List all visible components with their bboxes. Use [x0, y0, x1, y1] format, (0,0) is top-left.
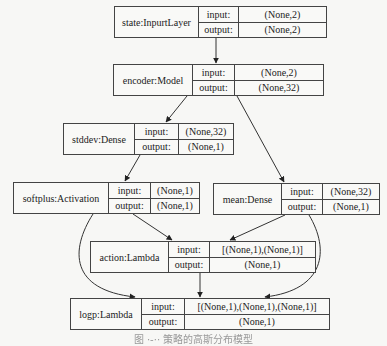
- node-label: logp:Lambda: [71, 299, 142, 329]
- edge-mean-action: [230, 215, 285, 240]
- output-shape: (None,1): [323, 200, 379, 215]
- input-shape: (None,2): [239, 7, 326, 23]
- input-shape: (None,1): [151, 183, 199, 199]
- output-label: output:: [169, 258, 209, 273]
- output-shape: (None,32): [235, 81, 323, 96]
- output-shape: (None,1): [151, 199, 199, 214]
- input-label: input:: [282, 184, 322, 200]
- node-mean: mean:Dense input:output: (None,32)(None,…: [213, 183, 380, 215]
- node-label: mean:Dense: [214, 184, 282, 214]
- edge-encoder-stddev: [166, 96, 187, 122]
- node-action: action:Lambda input:output: [(None,1),(N…: [90, 241, 316, 273]
- node-logp: logp:Lambda input:output: [(None,1),(Non…: [70, 298, 330, 330]
- input-label: input:: [199, 7, 238, 23]
- input-label: input:: [169, 242, 209, 258]
- output-label: output:: [142, 315, 184, 330]
- input-shape: (None,32): [179, 124, 233, 140]
- output-shape: (None,1): [179, 140, 233, 155]
- edge-stddev-softplus: [125, 155, 140, 181]
- input-shape: (None,2): [235, 65, 323, 81]
- output-shape: (None,1): [185, 315, 329, 330]
- node-label: encoder:Model: [114, 65, 193, 95]
- input-label: input:: [135, 124, 178, 140]
- input-label: input:: [142, 299, 184, 315]
- edge-encoder-mean: [237, 96, 284, 182]
- input-shape: [(None,1),(None,1),(None,1)]: [185, 299, 329, 315]
- output-shape: (None,2): [239, 23, 326, 38]
- output-label: output:: [193, 81, 234, 96]
- node-state: state:InpurtLayer input:output: (None,2)…: [114, 6, 327, 38]
- output-shape: (None,1): [210, 258, 315, 273]
- node-label: state:InpurtLayer: [115, 7, 199, 37]
- node-stddev: stddev:Dense input:output: (None,32)(Non…: [63, 123, 234, 155]
- input-shape: (None,32): [323, 184, 379, 200]
- input-shape: [(None,1),(None,1)]: [210, 242, 315, 258]
- node-label: action:Lambda: [91, 242, 169, 272]
- output-label: output:: [199, 23, 238, 38]
- output-label: output:: [109, 199, 150, 214]
- input-label: input:: [193, 65, 234, 81]
- output-label: output:: [282, 200, 322, 215]
- output-label: output:: [135, 140, 178, 155]
- figure-caption: 图 ·-·· 策略的高斯分布模型: [0, 331, 387, 346]
- node-label: softplus:Activation: [14, 183, 109, 213]
- node-encoder: encoder:Model input:output: (None,2)(Non…: [113, 64, 324, 96]
- input-label: input:: [109, 183, 150, 199]
- node-softplus: softplus:Activation input:output: (None,…: [13, 182, 200, 214]
- edge-softplus-action: [133, 214, 172, 240]
- node-label: stddev:Dense: [64, 124, 135, 154]
